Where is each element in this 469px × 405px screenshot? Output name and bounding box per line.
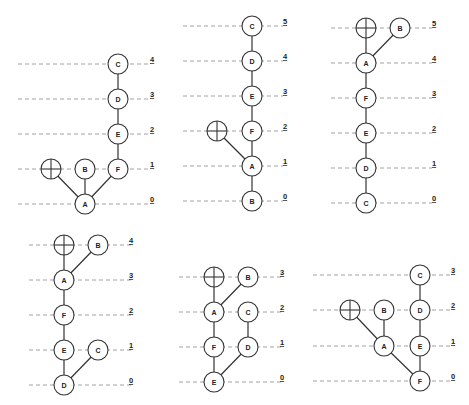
level-label: 4 (129, 236, 134, 245)
node-label: B (245, 274, 250, 281)
node-label: A (363, 60, 368, 67)
tree-node: F (242, 121, 262, 141)
node-label: E (212, 379, 217, 386)
level-label: 2 (280, 303, 284, 312)
tree-node: F (356, 88, 376, 108)
level-label: 2 (451, 301, 455, 310)
node-label: F (62, 312, 67, 319)
tree-node: E (410, 336, 430, 356)
level-label: 1 (283, 157, 287, 166)
tree-node: D (410, 300, 430, 320)
node-label: D (249, 58, 254, 65)
node-label: B (95, 242, 100, 249)
tree-node: D (54, 375, 74, 395)
tree-node: F (54, 305, 74, 325)
level-label: 1 (150, 160, 154, 169)
node-label: E (418, 343, 423, 350)
root-node (54, 235, 74, 255)
node-label: C (245, 309, 250, 316)
level-label: 0 (129, 376, 133, 385)
tree-diagram-canvas: 43210BAFEDC543210CDEFAB543210BAFEDC43210… (0, 0, 469, 405)
tree-node: B (88, 235, 108, 255)
node-label: A (381, 343, 386, 350)
level-label: 4 (150, 55, 155, 64)
tree-node: B (374, 300, 394, 320)
node-label: F (250, 128, 255, 135)
level-label: 4 (283, 52, 288, 61)
node-label: C (417, 272, 422, 279)
node-label: B (82, 166, 87, 173)
node-label: A (211, 309, 216, 316)
node-label: D (61, 382, 66, 389)
tree-node: B (242, 191, 262, 211)
level-label: 2 (129, 306, 133, 315)
root-node (204, 267, 224, 287)
root-node (41, 159, 61, 179)
level-label: 5 (432, 19, 436, 28)
node-label: F (364, 95, 369, 102)
root-node (356, 18, 376, 38)
level-label: 3 (150, 90, 154, 99)
tree-node: C (238, 302, 258, 322)
level-label: 0 (451, 372, 455, 381)
node-label: E (364, 130, 369, 137)
level-label: 1 (280, 338, 284, 347)
level-label: 2 (150, 125, 154, 134)
tree-node: B (390, 18, 410, 38)
tree-node: A (356, 53, 376, 73)
level-label: 0 (432, 194, 436, 203)
tree-node: D (108, 89, 128, 109)
node-label: D (115, 96, 120, 103)
panel-6: 3210CBDAEF (313, 265, 455, 391)
level-label: 2 (432, 124, 436, 133)
tree-node: E (242, 86, 262, 106)
node-label: F (212, 344, 217, 351)
tree-node: E (108, 124, 128, 144)
tree-node: D (242, 51, 262, 71)
tree-node: A (242, 156, 262, 176)
panel-5: 3210BACFDE (179, 267, 284, 392)
panel-4: 43210BAFECD (29, 235, 134, 395)
tree-node: D (238, 337, 258, 357)
level-label: 5 (283, 17, 287, 26)
level-label: 0 (283, 192, 287, 201)
node-label: B (397, 25, 402, 32)
tree-node: C (410, 265, 430, 285)
tree-node: C (242, 16, 262, 36)
level-label: 1 (432, 159, 436, 168)
node-label: C (95, 347, 100, 354)
tree-node: B (238, 267, 258, 287)
node-label: D (245, 344, 250, 351)
tree-node: C (356, 193, 376, 213)
tree-node: D (356, 158, 376, 178)
tree-node: F (204, 337, 224, 357)
panel-2: 543210CDEFAB (183, 16, 288, 211)
node-label: A (61, 277, 66, 284)
level-label: 3 (283, 87, 287, 96)
level-label: 0 (280, 373, 284, 382)
tree-node: E (356, 123, 376, 143)
tree-node: C (108, 54, 128, 74)
tree-node: E (54, 340, 74, 360)
node-label: E (62, 347, 67, 354)
level-label: 3 (451, 266, 455, 275)
level-label: 0 (150, 195, 154, 204)
node-label: C (363, 200, 368, 207)
node-label: A (82, 201, 87, 208)
node-label: B (249, 198, 254, 205)
tree-node: C (88, 340, 108, 360)
tree-node: F (410, 371, 430, 391)
node-label: C (249, 23, 254, 30)
level-label: 3 (432, 89, 436, 98)
node-label: F (116, 166, 121, 173)
tree-node: A (75, 194, 95, 214)
level-label: 1 (451, 337, 455, 346)
tree-node: F (108, 159, 128, 179)
node-label: F (418, 378, 423, 385)
root-node (207, 121, 227, 141)
level-label: 3 (280, 268, 284, 277)
tree-node: E (204, 372, 224, 392)
tree-node: A (204, 302, 224, 322)
level-label: 2 (283, 122, 287, 131)
level-label: 1 (129, 341, 133, 350)
